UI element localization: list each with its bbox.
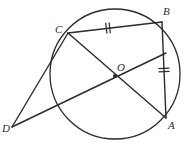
vertex-label-B: B xyxy=(163,6,170,17)
segment-CB xyxy=(68,22,162,33)
geometry-canvas xyxy=(0,0,189,149)
center-point-O xyxy=(113,74,117,78)
tick-mark-CB-1 xyxy=(106,23,107,34)
vertex-label-O: O xyxy=(117,62,125,73)
segment-BA xyxy=(162,22,166,118)
vertex-label-A: A xyxy=(168,120,175,131)
tick-mark-CB-2 xyxy=(109,22,110,33)
center-point-group xyxy=(113,74,117,78)
segment-CA xyxy=(68,33,166,118)
chord-group xyxy=(12,22,166,127)
vertex-label-C: C xyxy=(55,24,62,35)
vertex-label-D: D xyxy=(2,123,10,134)
segment-DO xyxy=(12,53,166,127)
geometry-figure: B C O D A xyxy=(0,0,189,149)
